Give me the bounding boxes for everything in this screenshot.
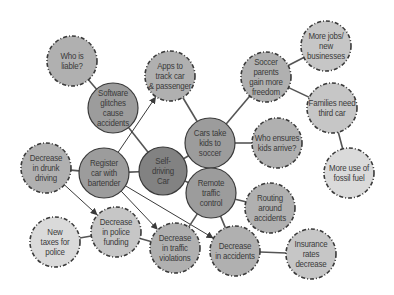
- connector-cars-take-kids-to-apps-to-track: [183, 97, 197, 121]
- node-insurance-rates: [286, 229, 336, 279]
- node-fossil-fuel: [324, 148, 374, 198]
- node-families-third-car: [307, 83, 357, 133]
- node-register-car: [79, 148, 129, 198]
- nodes-layer: [21, 21, 374, 279]
- connector-self-driving-car-to-software-glitches: [129, 128, 149, 153]
- node-apps-to-track: [145, 51, 195, 101]
- connector-remote-traffic-to-routing-around: [235, 199, 246, 202]
- node-who-ensures-kids: [252, 118, 302, 168]
- connector-decrease-police-funding-to-new-taxes: [80, 236, 92, 238]
- diagram-canvas: [0, 0, 394, 295]
- connector-register-car-to-decrease-drunk: [71, 170, 79, 171]
- connector-cars-take-kids-to-soccer-parents: [226, 96, 250, 124]
- connector-decrease-police-funding-to-decrease-violations: [140, 239, 151, 242]
- node-software-glitches: [88, 83, 138, 133]
- connector-decrease-accidents-to-insurance-rates: [260, 252, 286, 253]
- node-decrease-accidents: [210, 226, 260, 276]
- node-remote-traffic: [186, 168, 236, 218]
- node-routing-around: [245, 183, 295, 233]
- node-cars-take-kids: [185, 118, 235, 168]
- node-new-taxes: [30, 217, 80, 267]
- connector-remote-traffic-to-decrease-violations: [189, 214, 198, 227]
- node-who-is-liable: [47, 36, 97, 86]
- mind-map-diagram: Self- driving CarSoftware glitches cause…: [0, 0, 394, 295]
- connector-software-glitches-to-who-is-liable: [88, 80, 96, 89]
- node-more-jobs: [301, 21, 351, 71]
- node-decrease-violations: [150, 223, 200, 273]
- connector-families-third-car-to-fossil-fuel: [338, 132, 342, 149]
- node-soccer-parents: [241, 52, 291, 102]
- node-decrease-drunk: [21, 143, 71, 193]
- connector-remote-traffic-to-decrease-accidents: [221, 216, 226, 228]
- node-decrease-police-funding: [91, 207, 141, 257]
- connector-self-driving-car-to-cars-take-kids: [184, 156, 189, 159]
- node-self-driving-car: [139, 147, 187, 195]
- connector-soccer-parents-to-more-jobs: [288, 57, 304, 65]
- connector-soccer-parents-to-families-third-car: [289, 88, 310, 98]
